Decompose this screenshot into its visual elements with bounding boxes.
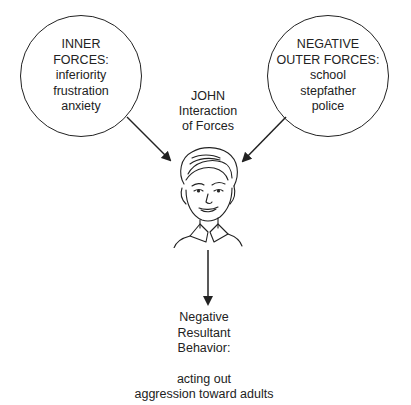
john-subtitle-2: of Forces bbox=[158, 119, 258, 134]
outer-forces-heading-1: NEGATIVE bbox=[297, 37, 359, 53]
inner-forces-heading-2: FORCES: bbox=[53, 53, 109, 69]
outer-force-item: school bbox=[310, 68, 346, 84]
behavior-item: acting out bbox=[104, 372, 304, 388]
result-heading-3: Behavior: bbox=[104, 341, 304, 357]
outer-forces-heading-2: OUTER FORCES: bbox=[277, 53, 380, 69]
outer-forces-circle: NEGATIVE OUTER FORCES: school stepfather… bbox=[267, 15, 389, 137]
inner-forces-circle: INNER FORCES: inferiority frustration an… bbox=[20, 15, 142, 137]
resultant-behavior: Negative Resultant Behavior: acting out … bbox=[104, 310, 304, 403]
inner-force-item: frustration bbox=[53, 84, 109, 100]
john-name: JOHN bbox=[158, 89, 258, 104]
inner-force-item: anxiety bbox=[61, 99, 101, 115]
inner-force-item: inferiority bbox=[56, 68, 107, 84]
spacer bbox=[104, 357, 304, 372]
boy-portrait-icon bbox=[170, 144, 246, 248]
john-subtitle-1: Interaction bbox=[158, 104, 258, 119]
outer-force-item: stepfather bbox=[300, 84, 356, 100]
result-heading-1: Negative bbox=[104, 310, 304, 326]
result-heading-2: Resultant bbox=[104, 326, 304, 342]
behavior-item: aggression toward adults bbox=[104, 387, 304, 403]
inner-forces-heading-1: INNER bbox=[62, 37, 101, 53]
outer-force-item: police bbox=[312, 99, 345, 115]
john-title: JOHN Interaction of Forces bbox=[158, 89, 258, 134]
